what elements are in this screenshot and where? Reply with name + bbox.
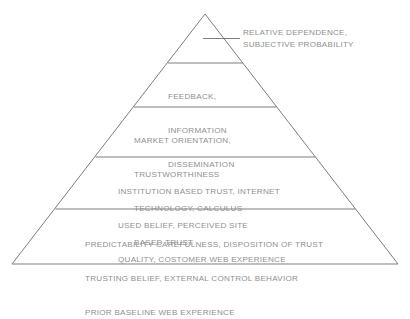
band-4-line-1: INSTITUTION BASED TRUST, INTERNET (118, 186, 286, 197)
callout-line-1: RELATIVE DEPENDENCE, (243, 27, 354, 39)
callout-line-2: SUBJECTIVE PROBABILITY (243, 39, 354, 51)
band-5-label: PREDICTABILITY CAREFULNESS, DISPOSITION … (85, 216, 323, 319)
callout-label: RELATIVE DEPENDENCE, SUBJECTIVE PROBABIL… (243, 27, 354, 51)
band-5-line-2: TRUSTING BELIEF, EXTERNAL CONTROL BEHAVI… (85, 273, 323, 284)
band-2-line-1: FEEDBACK, (168, 91, 235, 102)
band-5-line-1: PREDICTABILITY CAREFULNESS, DISPOSITION … (85, 239, 323, 250)
band-3-line-1: MARKET ORIENTATION, (134, 135, 242, 146)
band-5-line-3: PRIOR BASELINE WEB EXPERIENCE (85, 307, 323, 318)
